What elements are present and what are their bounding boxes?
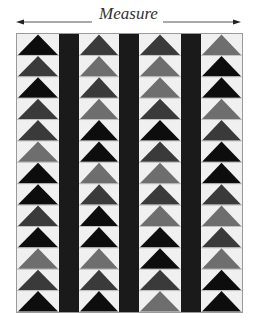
sashing-strip bbox=[181, 34, 201, 312]
sashing-strip bbox=[59, 34, 79, 312]
quilt-blocks bbox=[17, 34, 242, 312]
measure-label: Measure bbox=[0, 4, 257, 24]
quilt-diagram bbox=[16, 33, 243, 313]
sashing-strip bbox=[119, 34, 139, 312]
